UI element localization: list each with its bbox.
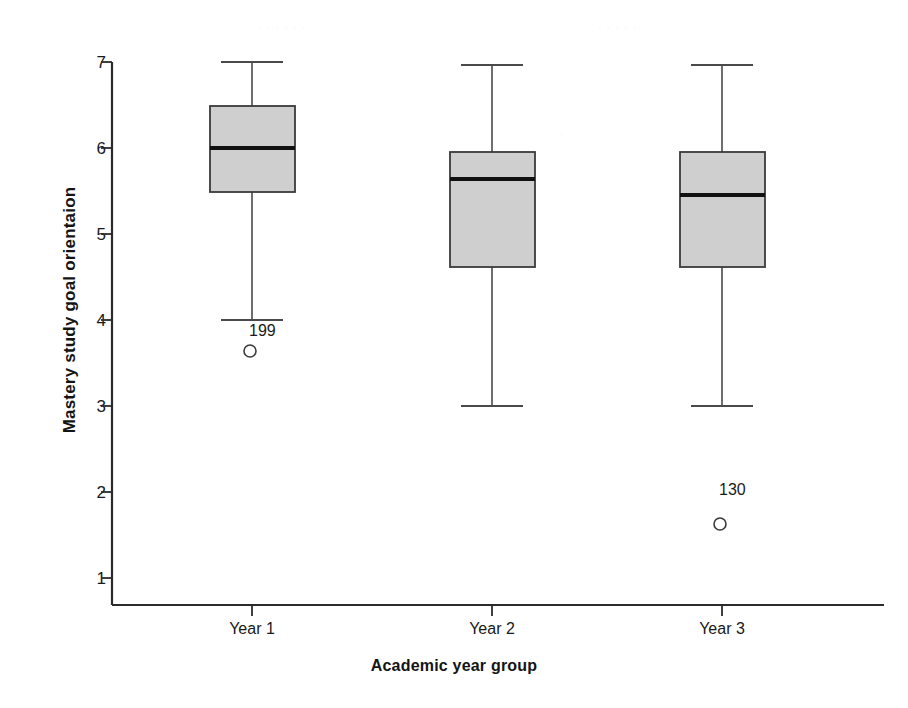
box-year-2[interactable] bbox=[450, 152, 535, 267]
box-group-year-1[interactable] bbox=[210, 62, 295, 357]
box-year-3[interactable] bbox=[680, 152, 765, 267]
x-tick-marks bbox=[252, 605, 722, 616]
box-group-year-3[interactable] bbox=[680, 65, 765, 530]
outlier-point-199[interactable] bbox=[244, 345, 256, 357]
y-tick-marks bbox=[101, 62, 112, 578]
boxplot-figure: · · · · · · · · · · · · Mastery study go… bbox=[0, 0, 908, 708]
outlier-point-130[interactable] bbox=[714, 518, 726, 530]
box-group-year-2[interactable] bbox=[450, 65, 535, 406]
plot-area bbox=[0, 0, 908, 708]
